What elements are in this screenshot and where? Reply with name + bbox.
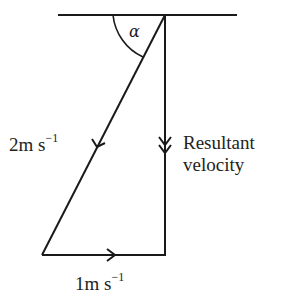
current-velocity-unit: m s: [85, 273, 112, 294]
resultant-label-line-2: velocity: [183, 155, 244, 174]
resultant-label-line-1: Resultant: [183, 133, 255, 152]
current-velocity-label: 1m s−1: [75, 273, 124, 293]
angle-alpha-label: α: [129, 24, 140, 40]
vector-diagram: α 2m s−1 Resultant velocity 1m s−1: [0, 0, 288, 297]
boat-velocity-unit: m s: [19, 134, 46, 155]
boat-velocity-vector: [42, 15, 165, 255]
current-velocity-exponent: −1: [111, 270, 124, 284]
boat-velocity-exponent: −1: [45, 131, 58, 145]
current-velocity-magnitude: 1: [75, 273, 85, 294]
boat-velocity-magnitude: 2: [9, 134, 19, 155]
boat-velocity-label: 2m s−1: [9, 134, 58, 154]
